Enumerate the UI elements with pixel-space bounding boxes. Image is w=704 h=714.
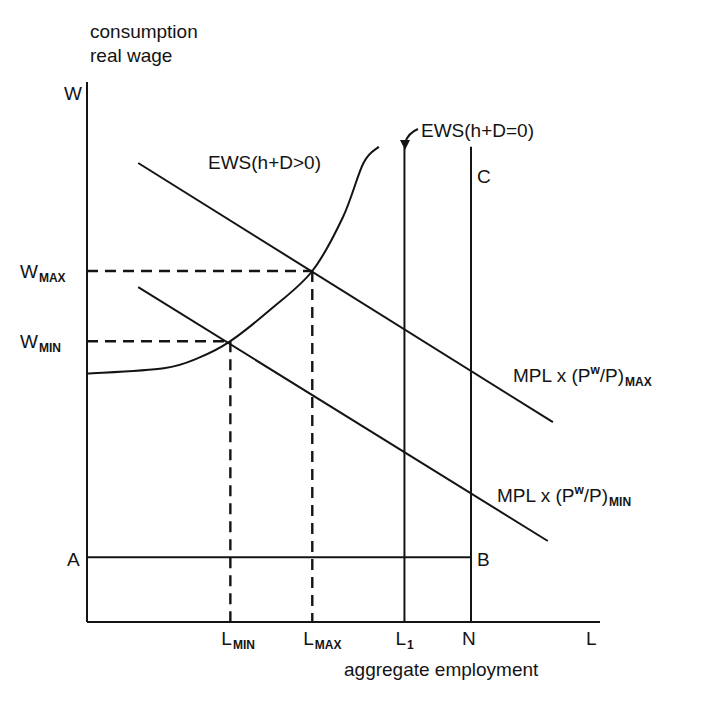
- y-tick-wmin: WMIN: [20, 331, 61, 355]
- chart: consumption real wage W L aggregate empl…: [0, 0, 704, 714]
- y-tick-wmax: WMAX: [20, 261, 66, 285]
- mpl-max-label: MPL x (Pw/P)MAX: [513, 363, 652, 389]
- x-tick-n: N: [462, 628, 476, 649]
- a-label: A: [67, 549, 80, 570]
- x-tick-l1: L1: [395, 628, 414, 652]
- y-axis-title-line1: consumption: [90, 21, 198, 42]
- c-label: C: [477, 166, 491, 187]
- ews-zero-arrowhead: [400, 140, 410, 150]
- mpl-min-line: [138, 287, 548, 541]
- x-axis-symbol: L: [586, 628, 597, 649]
- mpl-min-label: MPL x (Pw/P)MIN: [497, 483, 631, 509]
- y-axis-title-line2: real wage: [90, 45, 172, 66]
- ews-positive-curve: [87, 147, 379, 374]
- ews-zero-label: EWS(h+D=0): [421, 120, 534, 141]
- x-axis-title: aggregate employment: [344, 659, 539, 680]
- ews-positive-label: EWS(h+D>0): [208, 152, 321, 173]
- y-axis-symbol: W: [64, 83, 82, 104]
- x-tick-lmax: LMAX: [303, 628, 341, 652]
- plot-labels: MPL x (Pw/P)MAXMPL x (Pw/P)MINEWS(h+D>0)…: [20, 120, 652, 652]
- x-tick-lmin: LMIN: [221, 628, 255, 652]
- mpl-max-line: [138, 163, 553, 422]
- b-label: B: [477, 549, 490, 570]
- plot-area: [87, 82, 600, 622]
